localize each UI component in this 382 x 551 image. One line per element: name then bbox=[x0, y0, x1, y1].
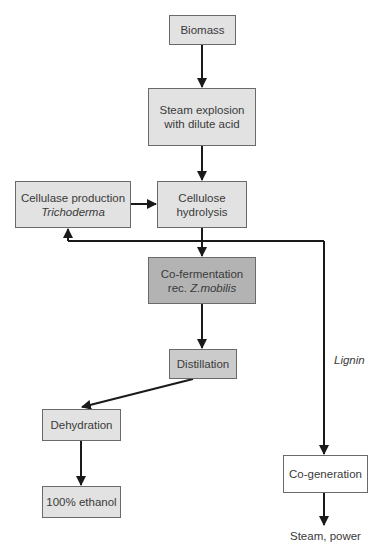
node-dehydration: Dehydration bbox=[42, 409, 121, 441]
edge-label-lignin: Lignin bbox=[334, 354, 365, 366]
node-hydrolysis-line2: hydrolysis bbox=[176, 205, 227, 219]
node-cellulase-production: Cellulase production Trichoderma bbox=[15, 181, 131, 228]
node-dehydration-label: Dehydration bbox=[50, 418, 112, 432]
arrow-distillation-to-dehydration bbox=[82, 379, 193, 407]
node-distillation-label: Distillation bbox=[177, 357, 229, 371]
node-cellulase-organism: Trichoderma bbox=[41, 205, 105, 219]
output-label-steam-power: Steam, power bbox=[290, 530, 361, 542]
node-hydrolysis-line1: Cellulose bbox=[178, 191, 225, 205]
node-co-fermentation: Co-fermentation rec. Z.mobilis bbox=[148, 257, 256, 304]
node-cofermentation-line2: rec. Z.mobilis bbox=[168, 281, 236, 295]
node-ethanol: 100% ethanol bbox=[42, 486, 121, 518]
node-distillation: Distillation bbox=[169, 349, 237, 379]
node-ethanol-label: 100% ethanol bbox=[46, 495, 116, 509]
node-biomass-label: Biomass bbox=[180, 23, 224, 37]
node-steam-explosion: Steam explosion with dilute acid bbox=[148, 88, 256, 146]
node-steam-explosion-line2: with dilute acid bbox=[164, 117, 239, 131]
node-co-generation: Co-generation bbox=[283, 455, 368, 493]
node-cellulose-hydrolysis: Cellulose hydrolysis bbox=[157, 181, 247, 228]
node-cellulase-line1: Cellulase production bbox=[21, 191, 125, 205]
node-cogeneration-label: Co-generation bbox=[289, 467, 362, 481]
node-steam-explosion-line1: Steam explosion bbox=[159, 103, 244, 117]
node-cofermentation-prefix: rec. bbox=[168, 282, 190, 294]
node-cofermentation-organism: Z.mobilis bbox=[190, 282, 236, 294]
node-cofermentation-line1: Co-fermentation bbox=[161, 267, 243, 281]
node-biomass: Biomass bbox=[169, 15, 236, 45]
